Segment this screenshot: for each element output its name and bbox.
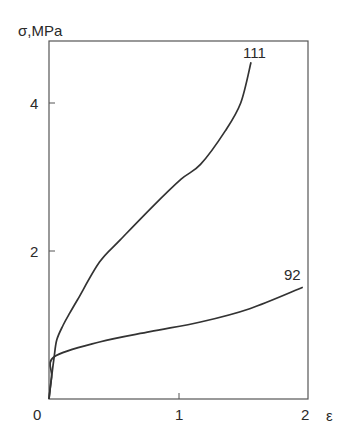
- curve-label-111: 111: [243, 44, 266, 61]
- stress-strain-chart: 0 1 2 2 4 σ,MPa ε 111 92: [0, 0, 355, 439]
- x-tick-label-2: 2: [301, 406, 309, 423]
- y-axis-label: σ,MPa: [18, 22, 63, 39]
- x-tick-label-1: 1: [175, 406, 183, 423]
- curve-label-92: 92: [284, 266, 301, 283]
- y-tick-label-2: 2: [30, 243, 38, 260]
- x-tick-label-0: 0: [33, 406, 41, 423]
- curve-92: [49, 287, 303, 399]
- curve-111: [49, 62, 251, 399]
- y-tick-label-4: 4: [30, 95, 38, 112]
- x-axis-label: ε: [326, 407, 333, 424]
